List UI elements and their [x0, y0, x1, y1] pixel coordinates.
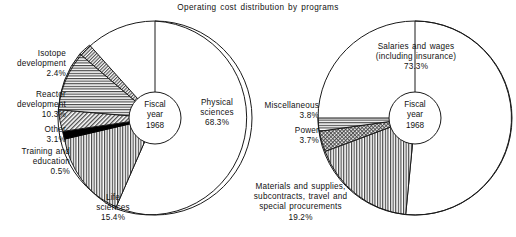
label-materials-supplies: Materials and supplies, subcontracts, tr…: [233, 182, 368, 223]
right-center-label: Fiscalyear1968: [391, 100, 439, 131]
label-physical-sciences: Physical sciences 68.3%: [188, 98, 246, 129]
label-other: Other 3.1%: [3, 125, 66, 145]
label-miscellaneous: Miscellaneous 3.8%: [248, 101, 319, 121]
left-center-line1: Fiscal: [144, 100, 165, 109]
chart-title: Operating cost distribution by programs: [0, 3, 516, 12]
left-center-line2: year: [147, 110, 163, 119]
left-center-label: Fiscalyear1968: [131, 100, 179, 131]
label-isotope-development: Isotope development 2.4%: [0, 49, 66, 80]
operating-cost-pie-figure: Operating cost distribution by programs …: [0, 0, 516, 237]
right-center-line1: Fiscal: [404, 100, 425, 109]
label-salaries-wages: Salaries and wages (including insurance)…: [355, 42, 477, 73]
label-reactor-development: Reactor development 10.3%: [0, 90, 66, 121]
label-training-education: Training and education 0.5%: [3, 147, 70, 178]
label-power: Power 3.7%: [252, 126, 319, 146]
left-center-line3: 1968: [146, 121, 164, 130]
right-center-line3: 1968: [406, 121, 424, 130]
label-life-sciences: Life sciences 15.4%: [88, 193, 138, 224]
right-center-line2: year: [407, 110, 423, 119]
